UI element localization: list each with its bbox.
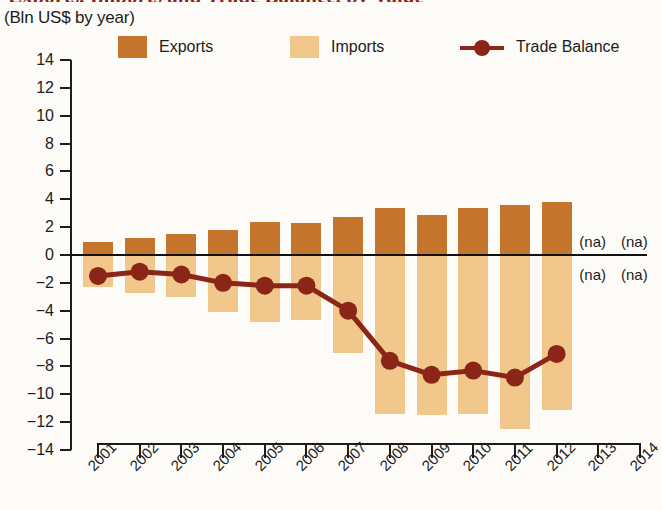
bar-imports [458,255,488,414]
legend-item-imports[interactable]: Imports [290,34,384,60]
y-axis-tick-label: −14 [8,442,54,458]
legend-label-imports: Imports [331,38,384,56]
na-annotation: (na) [621,266,648,283]
na-annotation: (na) [579,233,606,250]
bar-imports [375,255,405,414]
legend-item-exports[interactable]: Exports [118,34,213,60]
legend-swatch-imports [290,36,319,58]
bar-imports [250,255,280,322]
y-axis-tick-label: 6 [8,163,54,179]
y-axis-tick-label: −10 [8,386,54,402]
bar-exports [166,234,196,255]
legend-circle-marker [474,40,490,56]
bar-imports [542,255,572,410]
y-axis-tick-label: −8 [8,358,54,374]
bar-imports [208,255,238,312]
chart-title: Exports, Imports and Trade Balance, by V… [8,0,638,2]
bar-exports [208,230,238,255]
y-axis-tick-label: 10 [8,108,54,124]
legend-marker-trade-balance [460,36,504,58]
y-axis-tick-label: 14 [8,52,54,68]
legend-item-trade-balance[interactable]: Trade Balance [460,34,619,60]
bar-imports [83,255,113,287]
zero-axis-line [70,254,647,256]
y-axis-tick-label: −2 [8,275,54,291]
y-axis-tick-label: 2 [8,219,54,235]
bar-exports [375,208,405,255]
bar-imports [166,255,196,297]
bar-exports [333,217,363,255]
bar-imports [417,255,447,415]
legend-label-trade-balance: Trade Balance [516,38,619,56]
y-axis-tick-label: 4 [8,191,54,207]
y-axis-tick-label: 12 [8,80,54,96]
bar-exports [417,215,447,255]
y-axis-tick-label: 8 [8,136,54,152]
na-annotation: (na) [621,233,648,250]
y-axis-tick-label: 0 [8,247,54,263]
legend-label-exports: Exports [159,38,213,56]
bar-imports [500,255,530,429]
legend-swatch-exports [118,36,147,58]
na-annotation: (na) [579,266,606,283]
bar-imports [291,255,321,320]
bar-exports [500,205,530,255]
bar-imports [333,255,363,353]
bar-exports [291,223,321,255]
chart-legend: Exports Imports Trade Balance [0,34,647,60]
y-axis-tick-label: −6 [8,331,54,347]
chart-subtitle: (Bln US$ by year) [4,8,135,28]
bar-exports [542,202,572,255]
bar-exports [125,238,155,255]
y-axis-tick-label: −12 [8,414,54,430]
y-axis-tick-label: −4 [8,303,54,319]
bar-exports [458,208,488,255]
bar-exports [250,222,280,255]
bar-imports [125,255,155,293]
